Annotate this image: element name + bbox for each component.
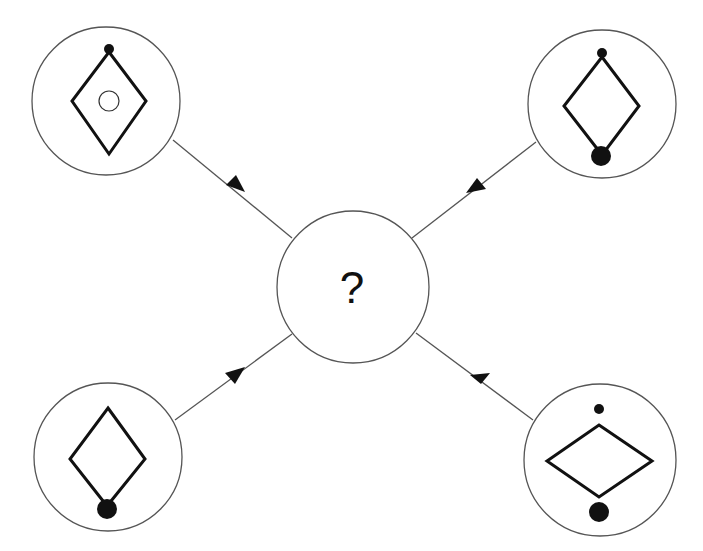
node-top-right: [528, 30, 676, 178]
large-dot-icon: [591, 146, 611, 166]
large-dot-icon: [97, 499, 117, 519]
small-dot-icon: [597, 48, 607, 58]
node-top-left: [32, 27, 180, 175]
arrowhead-top-right-icon: [466, 178, 486, 193]
node-bottom-right: [524, 384, 676, 536]
arrowhead-top-left-icon: [226, 175, 245, 192]
puzzle-diagram: ?: [0, 0, 703, 551]
node-bottom-left: [34, 383, 182, 531]
connector-top-left: [173, 140, 292, 238]
large-dot-icon: [589, 502, 609, 522]
node-center: ?: [277, 211, 429, 363]
small-dot-icon: [104, 44, 114, 54]
small-dot-icon: [594, 404, 604, 414]
question-mark: ?: [340, 263, 364, 312]
